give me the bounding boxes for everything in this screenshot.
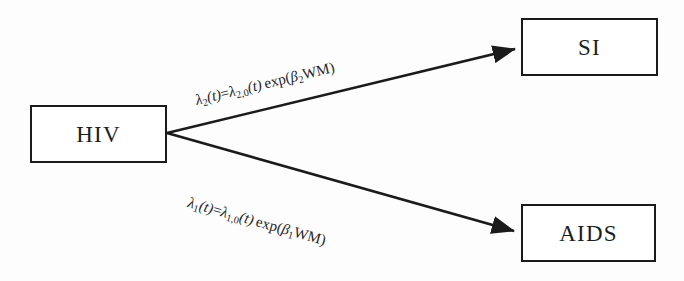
node-aids[interactable]: AIDS: [521, 204, 656, 262]
node-si[interactable]: SI: [521, 18, 658, 76]
edge-aids-of-t2: (t): [238, 209, 256, 228]
edge-si-of-t2: (t): [246, 76, 264, 95]
node-hiv[interactable]: HIV: [30, 105, 167, 163]
node-si-label: SI: [578, 36, 601, 59]
node-aids-label: AIDS: [559, 222, 617, 245]
diagram-canvas: HIV SI AIDS λ2(t)=λ2,0(t) exp(β2WM) λ1(t…: [0, 0, 684, 281]
node-hiv-label: HIV: [76, 123, 120, 146]
